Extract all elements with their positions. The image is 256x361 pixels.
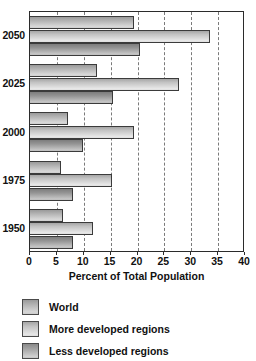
bar-1975-world bbox=[29, 161, 61, 174]
chart-legend: WorldMore developed regionsLess develope… bbox=[22, 296, 252, 361]
x-tick-label-5: 5 bbox=[44, 255, 68, 267]
bar-2050-more-developed-regions bbox=[29, 30, 210, 43]
bar-group-1975 bbox=[30, 157, 243, 205]
bar-2050-less-developed-regions bbox=[29, 43, 140, 56]
y-axis-label-1950: 1950 bbox=[0, 222, 25, 234]
bar-2000-world bbox=[29, 112, 68, 125]
x-tick-label-10: 10 bbox=[71, 255, 95, 267]
x-tick-label-25: 25 bbox=[151, 255, 175, 267]
bar-1950-more-developed-regions bbox=[29, 222, 93, 235]
x-tick-label-30: 30 bbox=[178, 255, 202, 267]
bar-2050-world bbox=[29, 16, 134, 29]
y-axis-label-2050: 2050 bbox=[0, 29, 25, 41]
bar-1950-less-developed-regions bbox=[29, 236, 73, 249]
population-bar-chart: Percent of Total Population WorldMore de… bbox=[0, 0, 256, 361]
legend-swatch-icon-0 bbox=[22, 299, 39, 315]
x-tick-label-40: 40 bbox=[232, 255, 256, 267]
x-axis-title: Percent of Total Population bbox=[29, 270, 244, 282]
bar-1950-world bbox=[29, 209, 63, 222]
bar-group-2050 bbox=[30, 12, 243, 60]
legend-label: More developed regions bbox=[49, 323, 170, 335]
x-tick-label-35: 35 bbox=[205, 255, 229, 267]
x-tick-label-20: 20 bbox=[125, 255, 149, 267]
y-axis-label-2025: 2025 bbox=[0, 77, 25, 89]
bar-group-2025 bbox=[30, 60, 243, 108]
legend-label: Less developed regions bbox=[49, 345, 169, 357]
bar-2025-less-developed-regions bbox=[29, 91, 113, 104]
y-axis-label-1975: 1975 bbox=[0, 174, 25, 186]
bar-2025-world bbox=[29, 64, 97, 77]
bar-group-2000 bbox=[30, 108, 243, 156]
bar-2000-less-developed-regions bbox=[29, 139, 83, 152]
y-axis-label-2000: 2000 bbox=[0, 126, 25, 138]
legend-swatch-icon-1 bbox=[22, 321, 39, 337]
legend-item-world[interactable]: World bbox=[22, 296, 252, 317]
plot-area bbox=[29, 11, 244, 252]
legend-item-less-developed-regions[interactable]: Less developed regions bbox=[22, 340, 252, 361]
legend-swatch-icon-2 bbox=[22, 343, 39, 359]
bar-1975-more-developed-regions bbox=[29, 174, 112, 187]
x-tick-label-0: 0 bbox=[17, 255, 41, 267]
legend-item-more-developed-regions[interactable]: More developed regions bbox=[22, 318, 252, 339]
bar-2025-more-developed-regions bbox=[29, 78, 179, 91]
legend-label: World bbox=[49, 301, 79, 313]
bar-2000-more-developed-regions bbox=[29, 126, 134, 139]
bar-group-1950 bbox=[30, 205, 243, 252]
x-tick-label-15: 15 bbox=[98, 255, 122, 267]
bar-1975-less-developed-regions bbox=[29, 188, 73, 201]
